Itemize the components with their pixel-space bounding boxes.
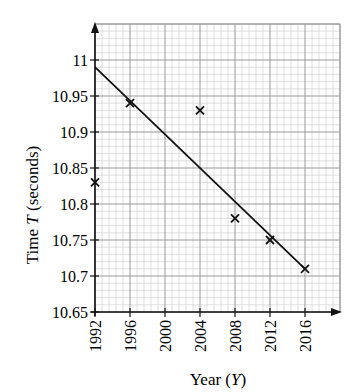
axes (91, 22, 342, 316)
y-tick-label: 10.65 (52, 304, 88, 321)
y-tick-label: 11 (73, 52, 88, 69)
x-axis-ticks: 1992199620002004200820122016 (87, 308, 314, 352)
x-tick-label: 1992 (87, 320, 104, 352)
y-tick-label: 10.75 (52, 232, 88, 249)
x-tick-label: 2008 (227, 320, 244, 352)
y-tick-label: 10.85 (52, 160, 88, 177)
y-tick-label: 10.7 (60, 268, 88, 285)
x-tick-label: 2012 (262, 320, 279, 352)
y-axis-title: Time T (seconds) (23, 146, 42, 264)
chart: 10.6510.710.7510.810.8510.910.9511 19921… (0, 0, 349, 392)
x-axis-title: Year (Y) (190, 370, 246, 389)
x-tick-label: 2004 (192, 320, 209, 352)
x-tick-label: 2016 (297, 320, 314, 352)
x-tick-label: 2000 (157, 320, 174, 352)
x-tick-label: 1996 (122, 320, 139, 352)
y-tick-label: 10.95 (52, 88, 88, 105)
y-tick-label: 10.9 (60, 124, 88, 141)
y-tick-label: 10.8 (60, 196, 88, 213)
